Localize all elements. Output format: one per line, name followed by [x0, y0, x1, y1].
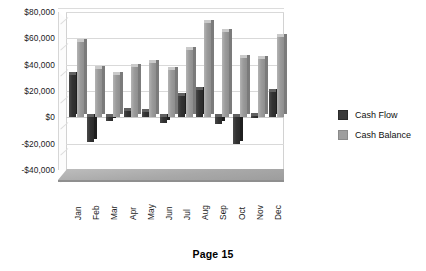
bar-face: [142, 112, 149, 117]
bar-top-face: [124, 108, 131, 111]
bar-top-face: [222, 29, 229, 32]
bar-top-face: [277, 34, 284, 37]
bar-cash-balance[interactable]: [186, 50, 193, 117]
bar-cash-balance[interactable]: [77, 42, 84, 117]
x-axis: JanFebMarAprMayJunJulAugSepOctNovDec: [58, 182, 284, 228]
x-axis-tick-label: Sep: [219, 205, 227, 220]
bar-top-face: [69, 72, 76, 75]
y-axis-tick-label: $60,000: [24, 34, 55, 42]
bar-face: [215, 117, 222, 124]
bar-cash-balance[interactable]: [258, 59, 265, 117]
bar-group: [102, 8, 120, 180]
cash-flow-chart-figure: $80,000$60,000$40,000$20,000$0-$20,000-$…: [0, 0, 426, 271]
bar-top-face: [87, 114, 94, 117]
chart-plot-area: $80,000$60,000$40,000$20,000$0-$20,000-$…: [0, 8, 320, 238]
bar-face: [87, 117, 94, 142]
bar-top-face: [131, 64, 138, 67]
bar-face: [277, 37, 284, 117]
bar-face: [186, 50, 193, 117]
bar-side-face: [94, 114, 97, 139]
bar-face: [77, 42, 84, 117]
x-axis-tick-label: Apr: [129, 207, 137, 220]
bar-series-container: [58, 8, 284, 188]
chart-legend: Cash FlowCash Balance: [338, 106, 424, 146]
bar-group: [266, 8, 284, 180]
bar-group: [193, 8, 211, 180]
bar-top-face: [77, 39, 84, 42]
bar-group: [230, 8, 248, 180]
bar-cash-balance[interactable]: [95, 69, 102, 118]
bar-face: [149, 63, 156, 117]
bar-group: [211, 8, 229, 180]
bar-cash-balance[interactable]: [168, 70, 175, 117]
bar-cash-flow[interactable]: [269, 92, 276, 117]
bar-top-face: [233, 114, 240, 117]
bar-top-face: [95, 66, 102, 69]
bar-cash-flow[interactable]: [215, 117, 222, 124]
x-axis-tick-label: Jul: [183, 209, 191, 220]
bar-side-face: [284, 34, 287, 114]
legend-item-label: Cash Flow: [355, 110, 398, 120]
y-axis-tick-label: $80,000: [24, 8, 55, 16]
bar-face: [222, 32, 229, 118]
bar-cash-flow[interactable]: [160, 117, 167, 122]
x-axis-tick-label: Jan: [74, 206, 82, 220]
bar-face: [106, 117, 113, 121]
bar-face: [178, 96, 185, 117]
bar-cash-flow[interactable]: [69, 75, 76, 117]
bar-cash-balance[interactable]: [240, 58, 247, 117]
x-axis-tick-label: Oct: [238, 207, 246, 220]
legend-swatch-icon: [338, 130, 348, 140]
bar-cash-flow[interactable]: [106, 117, 113, 121]
x-axis-tick-label: Jun: [165, 206, 173, 220]
bar-top-face: [168, 67, 175, 70]
bar-cash-balance[interactable]: [222, 32, 229, 118]
bar-face: [269, 92, 276, 117]
bar-face: [204, 23, 211, 118]
bar-group: [157, 8, 175, 180]
bar-group: [66, 8, 84, 180]
bar-cash-flow[interactable]: [233, 117, 240, 143]
bar-group: [248, 8, 266, 180]
y-axis: $80,000$60,000$40,000$20,000$0-$20,000-$…: [0, 8, 58, 183]
bar-cash-flow[interactable]: [87, 117, 94, 142]
bar-cash-flow[interactable]: [142, 112, 149, 117]
bar-top-face: [186, 47, 193, 50]
legend-item[interactable]: Cash Flow: [338, 106, 424, 123]
bar-cash-balance[interactable]: [113, 75, 120, 117]
y-axis-tick-label: -$40,000: [21, 166, 55, 174]
bar-cash-balance[interactable]: [277, 37, 284, 117]
bar-cash-balance[interactable]: [131, 67, 138, 117]
bar-cash-flow[interactable]: [124, 111, 131, 118]
bar-top-face: [196, 87, 203, 90]
bar-cash-flow[interactable]: [196, 90, 203, 118]
bar-cash-flow[interactable]: [178, 96, 185, 117]
bar-face: [131, 67, 138, 117]
bar-face: [233, 117, 240, 143]
bar-top-face: [149, 60, 156, 63]
page-number-footer: Page 15: [0, 248, 426, 260]
bar-top-face: [258, 56, 265, 59]
bar-face: [168, 70, 175, 117]
bar-face: [196, 90, 203, 118]
bar-cash-flow[interactable]: [251, 116, 258, 118]
y-axis-tick-label: $20,000: [24, 87, 55, 95]
bar-top-face: [269, 89, 276, 92]
x-axis-tick-label: May: [147, 204, 155, 220]
bar-face: [160, 117, 167, 122]
bar-cash-balance[interactable]: [204, 23, 211, 118]
bar-cash-balance[interactable]: [149, 63, 156, 117]
bar-face: [240, 58, 247, 117]
legend-swatch-icon: [338, 110, 348, 120]
x-axis-tick-label: Mar: [110, 205, 118, 220]
bar-top-face: [215, 114, 222, 117]
bar-face: [69, 75, 76, 117]
x-axis-tick-label: Aug: [201, 205, 209, 220]
bar-top-face: [106, 114, 113, 117]
bar-group: [121, 8, 139, 180]
legend-item[interactable]: Cash Balance: [338, 126, 424, 143]
x-axis-tick-label: Nov: [256, 205, 264, 220]
y-axis-tick-label: $40,000: [24, 61, 55, 69]
bar-top-face: [204, 20, 211, 23]
x-axis-tick-label: Dec: [274, 205, 282, 220]
